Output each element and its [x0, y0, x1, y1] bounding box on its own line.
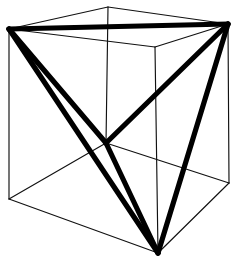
figure-canvas: Line drawing of a wireframe cube in obli…	[0, 0, 237, 262]
cube-tetrahedron-diagram	[0, 0, 237, 262]
